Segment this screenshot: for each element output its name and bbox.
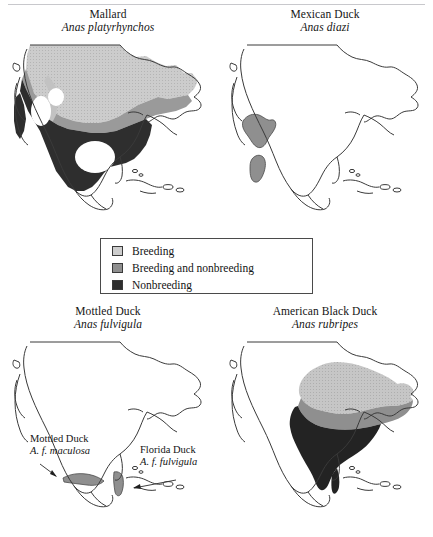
map-mallard	[0, 35, 216, 225]
map-mexican-duck	[217, 35, 433, 225]
panel-mallard-common-name: Mallard	[89, 8, 126, 20]
map-mottled-duck	[0, 332, 216, 532]
annotation-mottled-duck-maculosa: Mottled Duck A. f. maculosa	[30, 433, 90, 456]
map-mallard-svg	[0, 35, 216, 225]
panel-mexican-duck-title: Mexican Duck Anas diazi	[217, 8, 433, 35]
annotation-maculosa-common-name: Mottled Duck	[30, 433, 89, 444]
panel-mallard: Mallard Anas platyrhynchos	[0, 8, 216, 225]
panel-mallard-scientific-name: Anas platyrhynchos	[0, 21, 216, 35]
panel-mottled-duck-common-name: Mottled Duck	[75, 305, 140, 317]
panel-mottled-duck-title: Mottled Duck Anas fulvigula	[0, 305, 216, 332]
legend-label-breeding-and-nonbreeding: Breeding and nonbreeding	[132, 262, 254, 274]
legend-item-breeding: Breeding	[112, 243, 312, 259]
map-mexican-duck-svg	[217, 35, 433, 225]
panel-mottled-duck-scientific-name: Anas fulvigula	[0, 318, 216, 332]
panel-american-black-duck-common-name: American Black Duck	[273, 305, 378, 317]
panel-american-black-duck-scientific-name: Anas rubripes	[217, 318, 433, 332]
panel-mexican-duck-scientific-name: Anas diazi	[217, 21, 433, 35]
mottled-duck-coastline	[13, 342, 201, 507]
legend-swatch-breeding-and-nonbreeding	[112, 263, 123, 273]
map-mottled-duck-svg	[0, 332, 216, 532]
panel-mallard-title: Mallard Anas platyrhynchos	[0, 8, 216, 35]
map-american-black-duck-svg	[217, 332, 433, 532]
legend-swatch-breeding	[112, 246, 123, 256]
legend-item-nonbreeding: Nonbreeding	[112, 277, 312, 293]
annotation-fulvigula-scientific-name: A. f. fulvigula	[140, 456, 197, 468]
panel-mexican-duck: Mexican Duck Anas diazi	[217, 8, 433, 225]
panel-mottled-duck: Mottled Duck Anas fulvigula	[0, 305, 216, 532]
map-american-black-duck	[217, 332, 433, 532]
panel-american-black-duck-title: American Black Duck Anas rubripes	[217, 305, 433, 332]
duck-range-map-figure: Mallard Anas platyrhynchos	[0, 0, 433, 537]
annotation-maculosa-scientific-name: A. f. maculosa	[30, 445, 90, 457]
legend-item-breeding-and-nonbreeding: Breeding and nonbreeding	[112, 260, 312, 276]
map-legend: Breeding Breeding and nonbreeding Nonbre…	[100, 238, 313, 294]
annotation-fulvigula-common-name: Florida Duck	[140, 444, 196, 455]
panel-american-black-duck: American Black Duck Anas rubripes	[217, 305, 433, 532]
annotation-mottled-duck-fulvigula: Florida Duck A. f. fulvigula	[140, 444, 197, 467]
legend-swatch-nonbreeding	[112, 280, 123, 290]
panel-mexican-duck-common-name: Mexican Duck	[290, 8, 359, 20]
legend-label-breeding: Breeding	[132, 245, 174, 257]
legend-label-nonbreeding: Nonbreeding	[132, 279, 192, 291]
